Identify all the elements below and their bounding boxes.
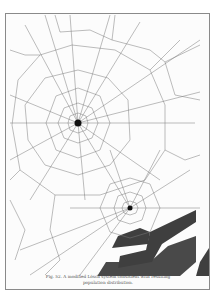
caption-line-2: population distribution. <box>10 280 206 286</box>
primary-radials <box>10 15 200 208</box>
primary-center-hub <box>75 120 82 127</box>
primary-rings <box>12 45 165 195</box>
losch-network-diagram <box>0 0 219 306</box>
figure-caption: Fig. 52. A modified Lösch system consist… <box>10 274 206 285</box>
population-bands <box>96 210 209 278</box>
secondary-center-hub <box>128 206 133 211</box>
